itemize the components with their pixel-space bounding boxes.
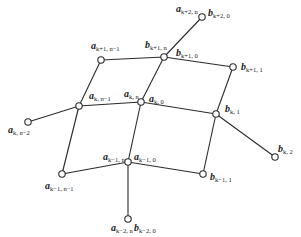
vertex-label: ak−1, 0: [134, 151, 156, 163]
mesh-edge: [79, 102, 141, 106]
vertex-km1nm1: [59, 171, 65, 177]
vertex-label: bk+2, 0: [208, 7, 230, 19]
vertex-label: ak−1, n: [103, 151, 125, 163]
vertex-label: ak, n−2: [8, 124, 30, 136]
vertex-label: ak, n−1: [89, 90, 111, 102]
label-subscript: k−1, 1: [215, 176, 232, 183]
label-subscript: k, n−2: [13, 129, 30, 136]
vertex-knm2: [25, 119, 31, 125]
vertex-label: ak+1, n−1: [91, 40, 120, 52]
label-subscript: k−1, 0: [139, 156, 156, 163]
label-subscript: k−1, n: [108, 156, 125, 163]
label-subscript: k+1, n: [150, 44, 167, 51]
vertex-label: ak, n: [124, 88, 140, 100]
vertex-km11: [200, 171, 206, 177]
label-subscript: k+2, n: [181, 8, 198, 15]
vertex-label: ak−1, n−1: [45, 180, 74, 192]
vertex-k2: [272, 154, 278, 160]
label-subscript: k, 2: [283, 148, 293, 155]
vertex-kp1n: [161, 54, 167, 60]
vertex-kp1nm1: [98, 57, 104, 63]
quad-mesh-diagram: ak+2, nbk+2, 0bk+1, nbk+1, 0ak+1, n−1bk+…: [0, 0, 301, 237]
vertex-label: bk, 1: [225, 103, 240, 115]
vertex-label: bk+1, 0: [176, 47, 198, 59]
vertex-label: ak−2, n: [111, 222, 133, 234]
label-subscript: k+1, 1: [246, 66, 263, 73]
mesh-edge: [164, 57, 233, 67]
mesh-edge: [203, 114, 216, 174]
vertex-label: bk−1, 1: [210, 171, 232, 183]
mesh-edge: [101, 57, 164, 60]
vertex-k1: [213, 111, 219, 117]
vertex-label: bk+1, n: [145, 39, 167, 51]
mesh-edge: [128, 162, 203, 174]
vertex-top: [199, 14, 205, 20]
mesh-edge: [164, 17, 202, 57]
vertex-label: bk+1, 1: [241, 61, 263, 73]
vertex-label: bk, 2: [278, 143, 293, 155]
label-subscript: k−2, n: [116, 227, 133, 234]
label-subscript: k, 0: [154, 98, 164, 105]
label-subscript: k, n: [129, 93, 140, 100]
label-subscript: k, 1: [230, 108, 240, 115]
vertex-labels: ak+2, nbk+2, 0bk+1, nbk+1, 0ak+1, n−1bk+…: [8, 3, 293, 234]
vertex-kp11: [230, 64, 236, 70]
vertex-label: bk−2, 0: [134, 222, 156, 234]
mesh-edge: [62, 106, 79, 174]
vertex-label: ak, 0: [149, 93, 164, 105]
vertex-km1n: [125, 159, 131, 165]
label-subscript: k−1, n−1: [50, 185, 74, 192]
vertex-label: ak+2, n: [176, 3, 198, 15]
label-subscript: k+1, 0: [181, 52, 198, 59]
mesh-edge: [62, 162, 128, 174]
mesh-edge: [216, 114, 275, 157]
vertex-bottom: [125, 216, 131, 222]
vertex-kn: [138, 99, 144, 105]
label-subscript: k+1, n−1: [96, 45, 120, 52]
vertex-knm1: [76, 103, 82, 109]
label-subscript: k, n−1: [94, 95, 111, 102]
label-subscript: k−2, 0: [139, 227, 156, 234]
label-subscript: k+2, 0: [213, 12, 230, 19]
mesh-edge: [28, 106, 79, 122]
